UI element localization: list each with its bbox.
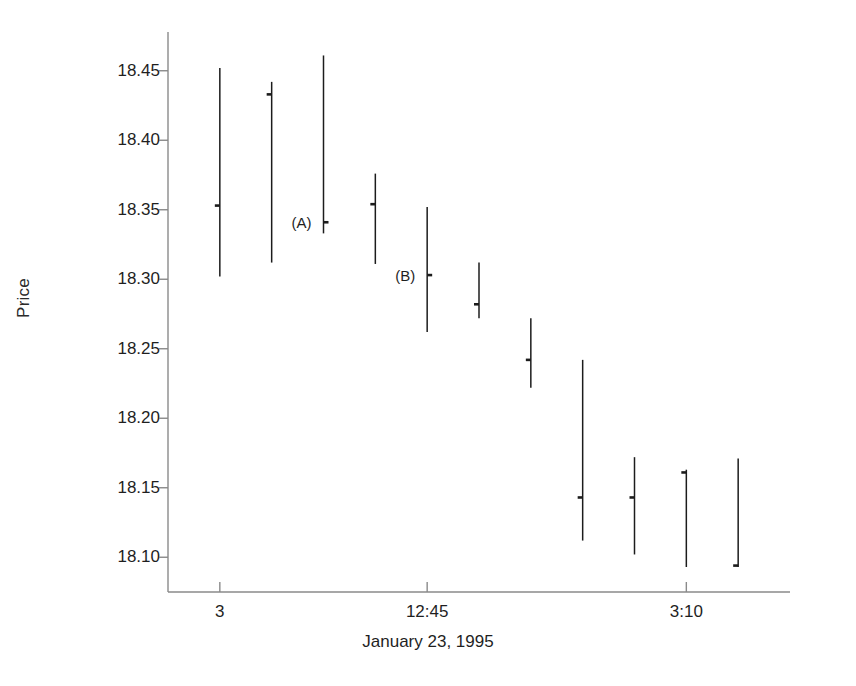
stock-price-range-chart: Price 18.4518.4018.3518.3018.2518.2018.1… [0, 0, 856, 686]
plot-area [0, 0, 856, 686]
